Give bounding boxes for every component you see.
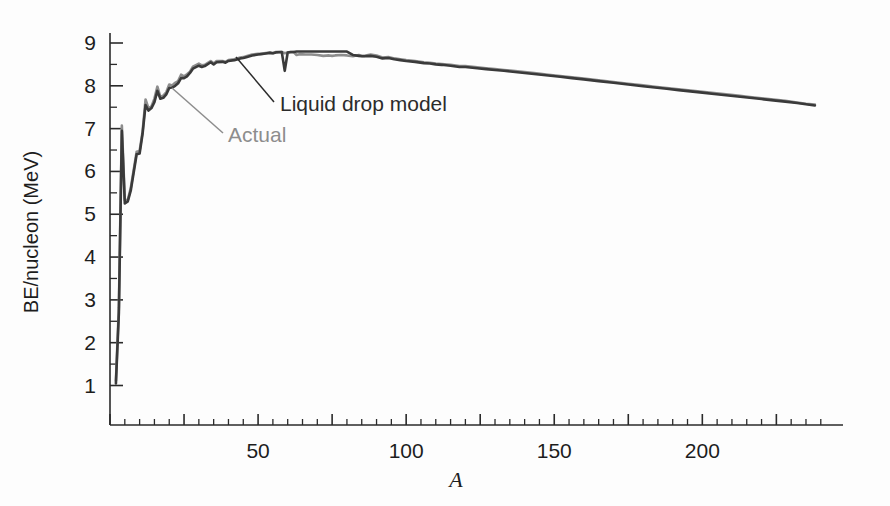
x-tick-label: 200 [685,439,720,462]
y-tick-label: 2 [84,331,96,354]
y-axis-tick-labels: 123456789 [84,31,96,397]
y-tick-label: 4 [84,245,96,268]
y-tick-label: 7 [84,117,96,140]
annotation-leader-line [172,88,223,133]
y-axis-title: BE/nucleon (MeV) [20,151,42,313]
y-tick-label: 5 [84,202,96,225]
y-tick-label: 3 [84,288,96,311]
y-tick-label: 9 [84,31,96,54]
series-line-actual [116,52,815,381]
annotation-label: Liquid drop model [280,92,447,115]
annotation-label: Actual [228,123,286,146]
x-axis-minor-ticks [125,419,821,425]
x-tick-label: 150 [537,439,572,462]
x-tick-label: 50 [246,439,269,462]
x-axis-title: A [447,467,463,492]
y-tick-label: 6 [84,159,96,182]
figure-container: 50100150200 123456789 Liquid drop modelA… [0,0,890,506]
x-axis-major-ticks [110,414,776,425]
chart-annotations: Liquid drop modelActual [172,57,447,146]
data-series-group [116,52,815,384]
annotation-leader-line [236,57,274,102]
y-tick-label: 8 [84,74,96,97]
x-tick-label: 100 [389,439,424,462]
binding-energy-chart: 50100150200 123456789 Liquid drop modelA… [0,0,890,506]
series-line-liquid-drop-model [116,52,815,384]
y-tick-label: 1 [84,374,96,397]
x-axis-tick-labels: 50100150200 [246,439,719,462]
